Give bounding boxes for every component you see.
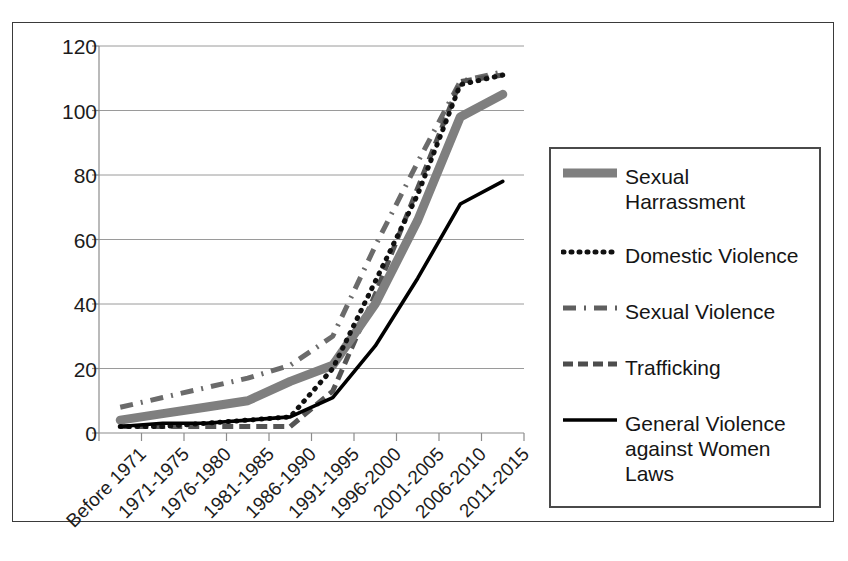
legend-label: General Violence against Women Laws (625, 410, 809, 486)
legend-swatch-dash-dot-gray-icon (561, 298, 619, 324)
legend-label: Trafficking (625, 354, 721, 380)
legend-swatch-thick-solid-gray-icon (561, 163, 619, 189)
y-axis-tick-label: 0 (85, 423, 97, 444)
y-axis-tick-label: 100 (62, 100, 97, 121)
legend-swatch-thin-solid-black-icon (561, 410, 619, 436)
legend-item[interactable]: Trafficking (561, 354, 809, 382)
y-axis-tick-label: 40 (74, 294, 97, 315)
legend-swatch-dotted-black-icon (561, 242, 619, 268)
legend-swatch-dashed-gray-icon (561, 354, 619, 380)
legend-item[interactable]: Domestic Violence (561, 242, 809, 270)
legend-label: Sexual Violence (625, 298, 775, 324)
y-axis-tick-label: 80 (74, 165, 97, 186)
y-axis-tick-label: 120 (62, 36, 97, 57)
legend-item[interactable]: Sexual Violence (561, 298, 809, 326)
series-line (120, 94, 503, 420)
legend-label: Sexual Harrassment (625, 163, 809, 214)
tick-marks (92, 46, 524, 441)
y-axis-tick-labels: 020406080100120 (23, 23, 97, 521)
y-axis-tick-label: 60 (74, 229, 97, 250)
legend-item[interactable]: Sexual Harrassment (561, 163, 809, 214)
series-lines (120, 72, 503, 427)
chart-figure: 020406080100120 Before 19711971-19751976… (12, 22, 834, 522)
legend-label: Domestic Violence (625, 242, 799, 268)
y-axis-tick-label: 20 (74, 358, 97, 379)
chart-legend: Sexual Harrassment Domestic Violence Sex… (549, 147, 821, 508)
legend-item[interactable]: General Violence against Women Laws (561, 410, 809, 486)
